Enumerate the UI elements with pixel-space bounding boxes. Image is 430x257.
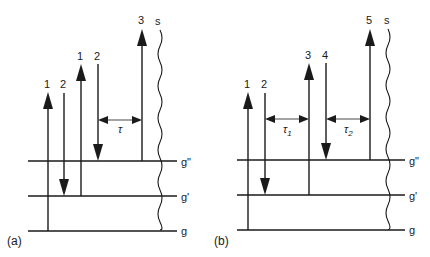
transition-arrow-up: 1: [243, 78, 253, 230]
continuum-wavy-line: [158, 30, 162, 230]
transition-arrow-up: 5: [365, 14, 375, 160]
delay-label: τ: [118, 123, 123, 135]
continuum-label: s: [155, 15, 161, 27]
transition-arrow-up: 3: [304, 49, 314, 195]
transition-arrow-down: 2: [59, 78, 69, 196]
transition-label: 3: [305, 49, 311, 61]
transition-label: 1: [77, 50, 83, 62]
transition-label: 1: [244, 78, 250, 90]
level-label: g": [409, 155, 419, 167]
panel-a: g" g' g s 1 2 1: [7, 14, 191, 248]
level-label: g: [409, 224, 415, 236]
panel-label: (a): [7, 234, 22, 248]
delay-arrow-tau1: τ1: [265, 115, 309, 138]
level-g: g: [28, 225, 187, 237]
level-label: g": [181, 156, 191, 168]
delay-arrow-tau: τ: [98, 116, 142, 135]
level-label: g': [181, 191, 189, 203]
energy-level-diagram: g" g' g s 1 2 1: [0, 0, 430, 257]
level-g-double-prime: g": [28, 156, 191, 168]
transition-arrow-down: 2: [260, 78, 270, 195]
panel-label: (b): [214, 234, 229, 248]
transition-label: 3: [138, 14, 144, 26]
transition-label: 5: [366, 14, 372, 26]
transition-arrow-up: 3: [137, 14, 147, 161]
continuum-label: s: [384, 14, 390, 26]
transition-label: 2: [94, 50, 100, 62]
transition-label: 4: [322, 49, 328, 61]
panel-b: g" g' g s 1 2 3: [214, 14, 419, 248]
level-label: g': [409, 190, 417, 202]
level-g-prime: g': [28, 191, 189, 203]
transition-label: 2: [261, 78, 267, 90]
transition-arrow-up: 1: [76, 50, 86, 196]
delay-label: τ2: [344, 123, 353, 138]
transition-arrow-up: 1: [43, 78, 53, 231]
transition-label: 1: [44, 78, 50, 90]
delay-arrow-tau2: τ2: [326, 115, 370, 138]
continuum-wavy-line: [386, 29, 390, 230]
transition-arrow-down: 2: [93, 50, 103, 161]
transition-arrow-down: 4: [321, 49, 331, 160]
level-label: g: [181, 225, 187, 237]
transition-label: 2: [60, 78, 66, 90]
delay-label: τ1: [283, 123, 292, 138]
